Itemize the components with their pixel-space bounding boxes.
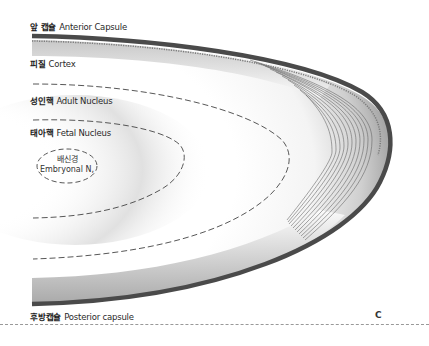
panel-letter: C bbox=[375, 310, 382, 320]
label-adult-nucleus: 성인핵Adult Nucleus bbox=[30, 94, 112, 106]
label-anterior-capsule: 앞 캡슐Anterior Capsule bbox=[30, 20, 127, 32]
label-embryonal-nucleus: 배신경 Embryonal N, bbox=[32, 155, 102, 175]
label-posterior-capsule: 후방캡슐Posterior capsule bbox=[30, 310, 134, 322]
label-cortex: 피질Cortex bbox=[30, 57, 75, 69]
label-fetal-nucleus: 태아핵Fetal Nucleus bbox=[30, 126, 111, 138]
separator-line bbox=[0, 324, 429, 325]
